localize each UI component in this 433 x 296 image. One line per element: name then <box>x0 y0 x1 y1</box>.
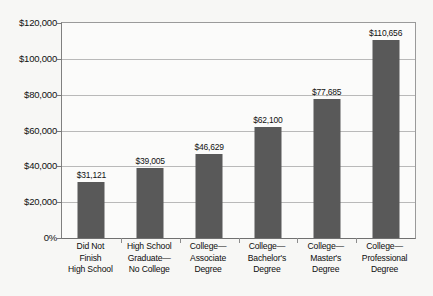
bar[interactable] <box>137 168 164 238</box>
y-axis-tick-label: $120,000 <box>19 17 57 28</box>
y-axis-tick-label: $20,000 <box>24 196 57 207</box>
bar[interactable] <box>196 154 223 238</box>
bar-slot: $31,121 <box>62 23 121 238</box>
bar-slot: $46,629 <box>180 23 239 238</box>
bar[interactable] <box>78 182 105 238</box>
category-label-line: Degree <box>238 264 297 276</box>
x-axis-category-label: High SchoolGraduate—No College <box>120 241 179 276</box>
y-axis-tick-label: $80,000 <box>24 88 57 99</box>
plot-area: $31,121$39,005$46,629$62,100$77,685$110,… <box>61 22 416 239</box>
bar-chart-figure: 0%$20,000$40,000$60,000$80,000$100,000$1… <box>0 0 433 296</box>
x-axis-category-label: College—Master'sDegree <box>296 241 355 276</box>
category-label-line: Associate <box>179 253 238 265</box>
y-axis-tick-labels: 0%$20,000$40,000$60,000$80,000$100,000$1… <box>0 0 57 296</box>
x-axis-category-label: College—Bachelor'sDegree <box>238 241 297 276</box>
bar[interactable] <box>254 127 281 238</box>
y-axis-tick-mark <box>57 238 62 239</box>
bar-value-label: $31,121 <box>77 170 106 180</box>
category-label-line: High School <box>120 241 179 253</box>
bar-slot: $77,685 <box>297 23 356 238</box>
category-label-line: Did Not <box>61 241 120 253</box>
bar[interactable] <box>313 99 340 238</box>
x-axis-category-labels: Did NotFinishHigh SchoolHigh SchoolGradu… <box>61 241 414 293</box>
category-label-line: College— <box>179 241 238 253</box>
bar[interactable] <box>372 40 399 238</box>
category-label-line: Master's <box>296 253 355 265</box>
bar-value-label: $39,005 <box>136 156 165 166</box>
x-axis-category-label: College—ProfessionalDegree <box>355 241 414 276</box>
bar-value-label: $110,656 <box>369 28 402 38</box>
x-axis-category-label: Did NotFinishHigh School <box>61 241 120 276</box>
category-label-line: Graduate— <box>120 253 179 265</box>
y-axis-tick-label: $40,000 <box>24 160 57 171</box>
y-axis-tick-label: $100,000 <box>19 52 57 63</box>
bar-slot: $39,005 <box>121 23 180 238</box>
bar-value-label: $77,685 <box>312 87 341 97</box>
category-label-line: Professional <box>355 253 414 265</box>
bar-value-label: $46,629 <box>194 142 223 152</box>
y-axis-tick-label: 0% <box>44 232 57 243</box>
bar-slot: $62,100 <box>239 23 298 238</box>
y-axis-tick-label: $60,000 <box>24 124 57 135</box>
category-label-line: No College <box>120 264 179 276</box>
bar-slot: $110,656 <box>356 23 415 238</box>
category-label-line: Degree <box>296 264 355 276</box>
x-axis-category-label: College—AssociateDegree <box>179 241 238 276</box>
category-label-line: Degree <box>179 264 238 276</box>
category-label-line: College— <box>296 241 355 253</box>
category-label-line: High School <box>61 264 120 276</box>
category-label-line: College— <box>238 241 297 253</box>
category-label-line: Bachelor's <box>238 253 297 265</box>
category-label-line: Finish <box>61 253 120 265</box>
category-label-line: College— <box>355 241 414 253</box>
category-label-line: Degree <box>355 264 414 276</box>
bar-value-label: $62,100 <box>253 115 282 125</box>
